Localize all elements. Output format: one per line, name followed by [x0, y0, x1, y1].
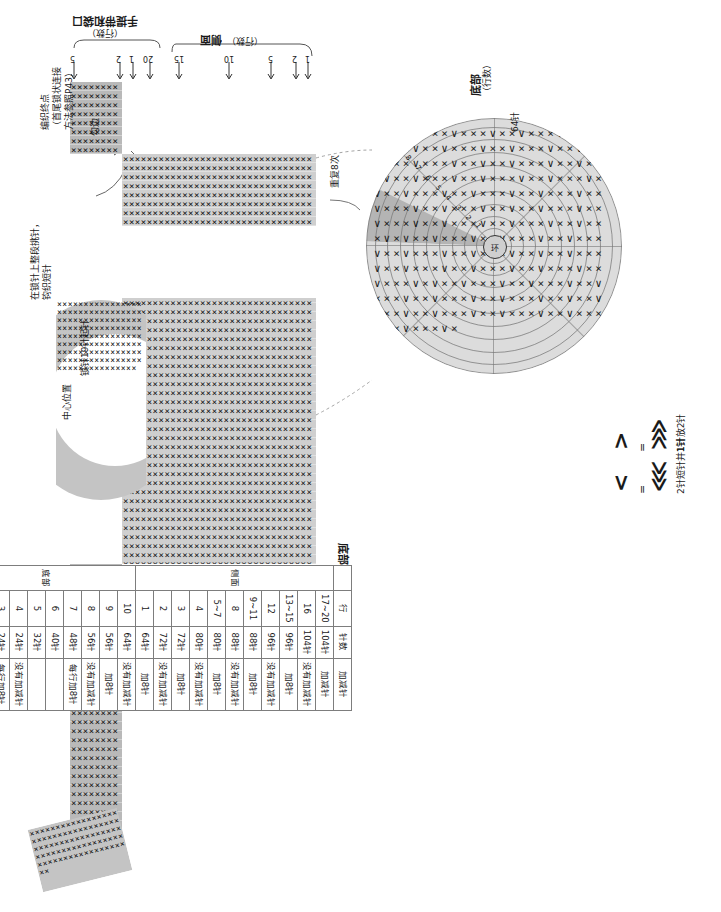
- table-cell-stitches: 24针: [0, 626, 10, 658]
- handle-section-label: 手提带和袋口 （行数）: [72, 14, 138, 38]
- side-section-unit: （行数）: [227, 35, 263, 46]
- table-cell-stitches: 80针: [190, 626, 208, 658]
- table-cell-stitches: 88针: [244, 626, 262, 658]
- table-cell-stitches: 80针: [208, 626, 226, 658]
- header-row: 行: [334, 591, 352, 627]
- table-cell-row: 8: [226, 591, 244, 627]
- table-cell-stitches: 88针: [226, 626, 244, 658]
- table-header-row: 行 针数 加减针: [334, 566, 352, 711]
- pickup-line-1: 在锁针上整段挑针，: [30, 219, 41, 300]
- side-section-title: 侧面: [200, 33, 222, 46]
- table-cell-stitches: 104针: [316, 626, 334, 658]
- table-cell-row: 2: [154, 591, 172, 627]
- table-cell-change: 加8针: [280, 659, 298, 711]
- pickup-line-2: 钩织短针: [42, 264, 53, 300]
- end-point-title: 编织终点: [40, 94, 51, 130]
- table-cell-change: 没有加减针: [190, 659, 208, 711]
- table-cell-stitches: 96针: [262, 626, 280, 658]
- handle-section-unit: （行数）: [72, 27, 138, 38]
- table-cell-stitches: 96针: [280, 626, 298, 658]
- table-body: 侧面17~20104针加减针16104针没有加减针13~1596针加8针1296…: [0, 566, 334, 711]
- table-cell-row: 17~20: [316, 591, 334, 627]
- table-cell-row: 10: [118, 591, 136, 627]
- header-section: [334, 566, 352, 591]
- decrease-symbol-icon: <: [610, 474, 632, 492]
- stitch-count-64-label: 64针: [510, 112, 521, 132]
- table-cell-change: 没有加减针: [262, 659, 280, 711]
- side-panel-top: ××××××××××××××××××××××××××××××××××××××××…: [122, 154, 316, 226]
- table-cell-row: 7: [64, 591, 82, 627]
- table-cell-row: 12: [262, 591, 280, 627]
- strap-end: ××××××××××××××××××××××××××××××××××××××××…: [28, 808, 133, 892]
- center-position-label: 中心位置: [62, 384, 73, 420]
- spec-table: 行 针数 加减针 侧面17~20104针加减针16104针没有加减针13~159…: [0, 565, 352, 711]
- table-row: 侧面17~20104针加减针: [316, 566, 334, 711]
- side-stitch-grid-main: ××××××××××××××××××××××××××××××××××××××××…: [122, 298, 316, 564]
- tick-handle-5: 5: [70, 54, 75, 63]
- table-cell-change: 加8针: [244, 659, 262, 711]
- header-change: 加减针: [334, 659, 352, 711]
- table-cell-row: 4: [190, 591, 208, 627]
- table-row: 底部1064针没有加减针: [118, 566, 136, 711]
- table-cell-change: 每行加8针: [0, 659, 10, 711]
- center-ring-label: 环: [483, 235, 507, 259]
- handle-section-title: 手提带和袋口: [72, 14, 138, 27]
- tick-handle-2: 2: [116, 54, 121, 63]
- table-cell-row: 9: [100, 591, 118, 627]
- table-cell-stitches: 40针: [46, 626, 64, 658]
- table-cell-row: 13~15: [280, 591, 298, 627]
- table-cell-row: 3: [172, 591, 190, 627]
- table-cell-stitches: 72针: [154, 626, 172, 658]
- table-section-name: 底部: [0, 566, 136, 591]
- table-cell-stitches: 72针: [172, 626, 190, 658]
- table-cell-change: 加8针: [172, 659, 190, 711]
- table-cell-row: 9~11: [244, 591, 262, 627]
- table-cell-row: 8: [82, 591, 100, 627]
- table-cell-change: 加8针: [208, 659, 226, 711]
- tick-side-15: 15: [174, 54, 184, 63]
- table-cell-change: 没有加减针: [298, 659, 316, 711]
- table-cell-change: 没有加减针: [154, 659, 172, 711]
- header-stitches: 针数: [334, 626, 352, 658]
- side-section-label: 侧面 （行数）: [200, 28, 263, 47]
- table-cell-stitches: 56针: [100, 626, 118, 658]
- decrease-symbol-alt-icon: ⋘: [648, 461, 670, 492]
- end-point-note-1: （首尾锁状连接: [52, 67, 63, 130]
- tick-handle-1: 1: [129, 54, 134, 63]
- tick-handle-20: 20: [143, 54, 153, 63]
- table-cell-stitches: 104针: [298, 626, 316, 658]
- table-cell-stitches: 64针: [118, 626, 136, 658]
- table-cell-row: 4: [10, 591, 28, 627]
- table-cell-row: 5~7: [208, 591, 226, 627]
- table-cell-change: 没有加减针: [118, 659, 136, 711]
- table-cell-stitches: 24针: [10, 626, 28, 658]
- table-cell-change: 加减针: [316, 659, 334, 711]
- legend-decrease-text: 2针短针并1针: [676, 438, 687, 494]
- chain-start-label: 锁针19针起针: [80, 320, 91, 376]
- increase-symbol-alt-icon: ⋙: [648, 419, 670, 450]
- end-point-note-2: 方法参照P43）: [64, 68, 75, 130]
- table-cell-stitches: 48针: [64, 626, 82, 658]
- table-section-name: 侧面: [136, 566, 334, 591]
- repeat-label: 重复8次: [330, 155, 341, 188]
- table-cell-row: 5: [28, 591, 46, 627]
- side-panel-main: ××××××××××××××××××××××××××××××××××××××××…: [122, 298, 316, 564]
- increase-symbol-icon: >: [610, 432, 632, 450]
- table-cell-row: 6: [46, 591, 64, 627]
- tick-side-1: 1: [305, 54, 310, 63]
- table-cell-change: 没有加减针: [226, 659, 244, 711]
- table-cell-row: 16: [298, 591, 316, 627]
- table-cell-stitches: 56针: [82, 626, 100, 658]
- table-cell-row: 1: [136, 591, 154, 627]
- table-cell-stitches: 32针: [28, 626, 46, 658]
- center-ring-text: 环: [491, 242, 499, 253]
- table-cell-change: 没有加减针: [10, 659, 28, 711]
- side-stitch-grid-top: ××××××××××××××××××××××××××××××××××××××××…: [122, 154, 316, 226]
- table-cell-change: [28, 659, 46, 711]
- table-cell-change: 加8针: [136, 659, 154, 711]
- bottom-section-unit: （行数）: [482, 60, 493, 96]
- table-cell-change: 没有加减针: [82, 659, 100, 711]
- edge-label-top: 勾边: [90, 118, 101, 136]
- table-cell-change: 每行加8针: [64, 659, 82, 711]
- tick-side-2: 2: [292, 54, 297, 63]
